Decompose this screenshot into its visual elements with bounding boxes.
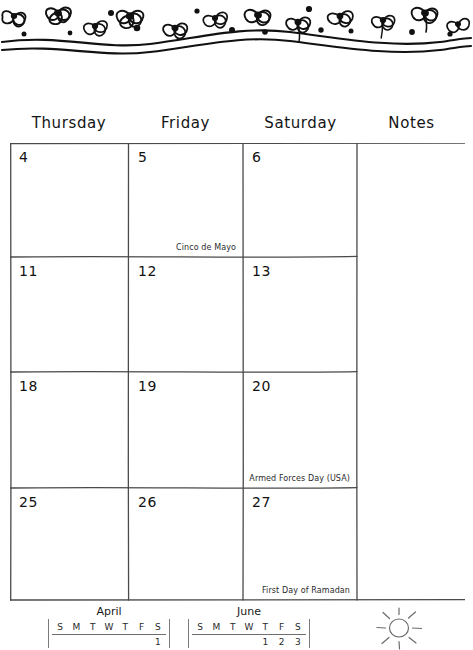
mini-day-cell[interactable]: 2 bbox=[273, 636, 289, 648]
day-cell[interactable]: 19 bbox=[129, 373, 243, 488]
mini-calendar-dow-row: S M T W T F S bbox=[192, 620, 306, 635]
mini-dow-cell: M bbox=[68, 621, 84, 633]
column-header-friday: Friday bbox=[128, 114, 243, 132]
day-number: 26 bbox=[138, 494, 157, 510]
day-event-label: First Day of Ramadan bbox=[262, 586, 350, 595]
mini-dow-cell: F bbox=[273, 621, 289, 633]
column-header-saturday: Saturday bbox=[243, 114, 358, 132]
day-event-label: Armed Forces Day (USA) bbox=[249, 474, 350, 483]
mini-day-cell[interactable]: 3 bbox=[290, 636, 306, 648]
day-event-label: Cinco de Mayo bbox=[176, 243, 236, 252]
mini-dow-cell: W bbox=[101, 621, 117, 633]
day-cell[interactable]: 18 bbox=[10, 373, 128, 488]
mini-calendar-title: April bbox=[48, 604, 170, 619]
day-number: 12 bbox=[138, 263, 157, 279]
mini-dow-cell: S bbox=[192, 621, 208, 633]
day-cell[interactable]: 20 Armed Forces Day (USA) bbox=[243, 373, 357, 488]
day-number: 4 bbox=[19, 149, 28, 165]
day-number: 27 bbox=[252, 494, 271, 510]
mini-calendar-dow-row: S M T W T F S bbox=[52, 620, 166, 635]
day-cell[interactable]: 6 bbox=[243, 144, 357, 257]
column-header-thursday: Thursday bbox=[10, 114, 128, 132]
day-cell[interactable]: 5 Cinco de Mayo bbox=[129, 144, 243, 257]
day-cell[interactable]: 27 First Day of Ramadan bbox=[243, 489, 357, 600]
mini-day-cell[interactable]: 1 bbox=[150, 636, 166, 648]
weekday-header-row: Thursday Friday Saturday Notes bbox=[10, 114, 465, 140]
mini-dow-cell: T bbox=[85, 621, 101, 633]
day-number: 11 bbox=[19, 263, 38, 279]
day-cell[interactable]: 13 bbox=[243, 258, 357, 372]
day-number: 5 bbox=[138, 149, 147, 165]
day-number: 25 bbox=[19, 494, 38, 510]
mini-dow-cell: T bbox=[225, 621, 241, 633]
column-header-notes: Notes bbox=[358, 114, 465, 132]
mini-dow-cell: T bbox=[257, 621, 273, 633]
day-number: 20 bbox=[252, 378, 271, 394]
mini-dow-cell: T bbox=[117, 621, 133, 633]
day-number: 19 bbox=[138, 378, 157, 394]
mini-dow-cell: W bbox=[241, 621, 257, 633]
mini-dow-cell: M bbox=[208, 621, 224, 633]
day-number: 6 bbox=[252, 149, 261, 165]
mini-dow-cell: S bbox=[52, 621, 68, 633]
mini-calendar-body: S M T W T F S 1 2 3 bbox=[188, 619, 310, 648]
day-cell[interactable]: 12 bbox=[129, 258, 243, 372]
mini-calendar-body: S M T W T F S 1 bbox=[48, 619, 170, 648]
mini-calendar-june: June S M T W T F S 1 2 3 bbox=[188, 604, 310, 648]
day-cell[interactable]: 25 bbox=[10, 489, 128, 600]
day-number: 18 bbox=[19, 378, 38, 394]
mini-calendar-title: June bbox=[188, 604, 310, 619]
mini-dow-cell: S bbox=[290, 621, 306, 633]
mini-dow-cell: F bbox=[133, 621, 149, 633]
sun-icon bbox=[372, 606, 428, 650]
day-cell[interactable]: 11 bbox=[10, 258, 128, 372]
mini-calendar-week-row: 1 2 3 bbox=[192, 635, 306, 648]
day-cell[interactable]: 4 bbox=[10, 144, 128, 257]
mini-calendar-april: April S M T W T F S 1 bbox=[48, 604, 170, 648]
mini-day-cell[interactable]: 1 bbox=[257, 636, 273, 648]
mini-dow-cell: S bbox=[150, 621, 166, 633]
mini-calendar-week-row: 1 bbox=[52, 635, 166, 648]
calendar-grid: 4 5 Cinco de Mayo 6 11 12 13 18 19 20 Ar… bbox=[10, 143, 465, 601]
top-flower-border-decoration bbox=[0, 0, 473, 58]
day-cell[interactable]: 26 bbox=[129, 489, 243, 600]
day-number: 13 bbox=[252, 263, 271, 279]
notes-column-cell[interactable] bbox=[357, 143, 465, 601]
